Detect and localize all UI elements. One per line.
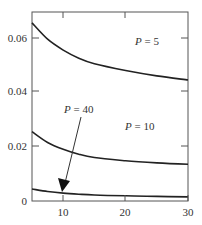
x-tick-label-20: 20: [120, 206, 132, 218]
chart: 10 20 30 0 0.02 0.04 0.06 P = 5 P = 10 P…: [0, 0, 202, 225]
y-tick-label-0.02: 0.02: [8, 140, 27, 152]
curve-p40: [32, 189, 188, 197]
annotation-p10: P = 10: [124, 120, 155, 132]
curve-p5: [32, 23, 188, 80]
x-tick-label-30: 30: [183, 206, 195, 218]
y-tick-label-0: 0: [22, 195, 28, 207]
plot-frame: [32, 12, 188, 201]
curves: [32, 23, 188, 197]
y-ticks: [32, 38, 188, 146]
curve-p10: [32, 132, 188, 165]
x-tick-label-10: 10: [58, 206, 70, 218]
y-tick-label-0.06: 0.06: [8, 32, 28, 44]
y-tick-label-0.04: 0.04: [8, 85, 28, 97]
annotation-p5: P = 5: [134, 35, 159, 47]
annotation-p40: P = 40: [63, 103, 94, 115]
